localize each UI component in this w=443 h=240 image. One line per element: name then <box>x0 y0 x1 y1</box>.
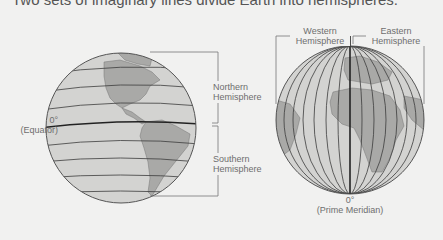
globe-americas <box>40 52 200 203</box>
globe-europe-africa <box>276 36 424 194</box>
prime-meridian-label: 0° (Prime Meridian) <box>300 195 400 215</box>
western-hemisphere-label: Western Hemisphere <box>290 26 350 46</box>
eastern-hemisphere-label: Eastern Hemisphere <box>366 26 426 46</box>
northern-hemisphere-label: Northern Hemisphere <box>213 81 262 103</box>
southern-hemisphere-label: Southern Hemisphere <box>213 153 262 175</box>
equator-label: 0° (Equator) <box>14 115 58 135</box>
